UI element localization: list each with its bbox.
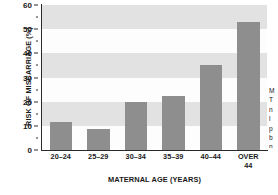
x-tick-label: 35–39 [155, 153, 193, 162]
side-caption-line: n [269, 142, 278, 148]
x-tick-label: 40–44 [192, 153, 230, 162]
y-tick-label: 20 [23, 97, 32, 106]
y-minor-tick-mark [36, 17, 39, 18]
y-minor-tick-mark [36, 113, 39, 114]
miscarriage-risk-bar-chart: RISK OF MISCARRIAGE (%) 0102030405060 20… [0, 0, 278, 195]
side-caption-line: l [269, 114, 278, 123]
x-axis-line [41, 150, 268, 151]
bar [125, 102, 148, 150]
side-caption-line: T [269, 95, 278, 104]
y-tick-mark [34, 150, 38, 151]
y-minor-tick-mark [36, 65, 39, 66]
y-tick-label: 60 [23, 1, 32, 10]
y-minor-tick-mark [36, 41, 39, 42]
side-caption-line: b [269, 133, 278, 142]
side-caption-line: n [269, 105, 278, 114]
y-tick-label: 30 [23, 73, 32, 82]
y-tick-mark [34, 53, 38, 54]
y-tick-label: 50 [23, 25, 32, 34]
y-tick-label: 0 [28, 146, 32, 155]
side-caption-line: M [269, 86, 278, 95]
y-tick-mark [34, 29, 38, 30]
x-tick-label: 25–29 [80, 153, 118, 162]
x-tick-label: OVER 44 [230, 153, 268, 170]
y-tick-mark [34, 5, 38, 6]
y-tick-label: 40 [23, 49, 32, 58]
bar-series [42, 5, 267, 150]
y-axis-tick-labels: 0102030405060 [0, 0, 38, 195]
y-tick-label: 10 [23, 121, 32, 130]
x-tick-label: 20–24 [42, 153, 80, 162]
x-tick-label: 30–34 [117, 153, 155, 162]
side-caption-line: p [269, 124, 278, 133]
y-tick-mark [34, 77, 38, 78]
side-caption-text: MTnlpbnc [269, 86, 278, 148]
x-axis-label: MATERNAL AGE (YEARS) [42, 175, 267, 184]
bar [200, 65, 223, 150]
y-minor-tick-mark [36, 137, 39, 138]
x-axis-tick-labels: 20–2425–2930–3435–3940–44OVER 44 [42, 153, 267, 177]
bar [162, 96, 185, 150]
bar [50, 122, 73, 150]
bar [87, 129, 110, 150]
y-tick-mark [34, 101, 38, 102]
y-minor-tick-mark [36, 89, 39, 90]
bar [237, 22, 260, 150]
y-tick-mark [34, 125, 38, 126]
